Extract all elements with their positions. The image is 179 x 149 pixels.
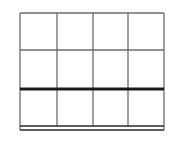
- outer-frame: [20, 13, 164, 130]
- bottom-double-border: [20, 126, 164, 130]
- table-grid-diagram: [0, 0, 179, 149]
- column-dividers: [57, 13, 128, 126]
